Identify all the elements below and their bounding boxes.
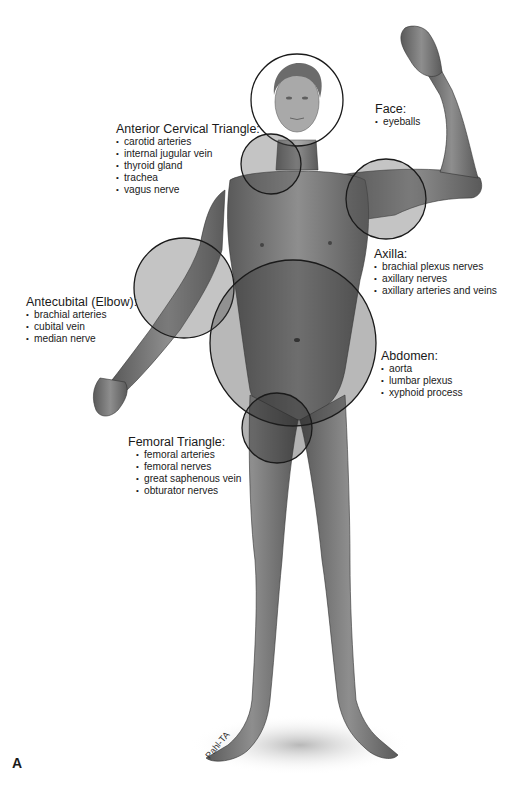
label-femoral-item: femoral arteries	[136, 449, 241, 461]
label-abdomen: Abdomen: aorta lumbar plexus xyphoid pro…	[381, 349, 463, 399]
label-anterior-cervical-item: thyroid gland	[116, 160, 260, 172]
nipple-left-icon	[260, 243, 264, 247]
label-antecubital-item: brachial arteries	[26, 309, 137, 321]
label-axilla-item: brachial plexus nerves	[374, 261, 497, 273]
label-axilla-item: axillary nerves	[374, 273, 497, 285]
label-antecubital-item: cubital vein	[26, 321, 137, 333]
panel-letter: A	[12, 755, 22, 771]
label-axilla-title: Axilla:	[374, 247, 497, 261]
label-anterior-cervical-item: vagus nerve	[116, 184, 260, 196]
label-face: Face: eyeballs	[375, 102, 420, 128]
label-antecubital-title: Antecubital (Elbow):	[26, 295, 137, 309]
label-anterior-cervical-title: Anterior Cervical Triangle:	[116, 122, 260, 136]
label-anterior-cervical: Anterior Cervical Triangle: carotid arte…	[116, 122, 260, 196]
label-face-item: eyeballs	[375, 116, 420, 128]
label-abdomen-item: lumbar plexus	[381, 375, 463, 387]
label-antecubital: Antecubital (Elbow): brachial arteries c…	[26, 295, 137, 345]
label-axilla-item: axillary arteries and veins	[374, 285, 497, 297]
region-circle-axilla	[346, 159, 426, 239]
region-circle-face	[251, 54, 343, 146]
region-circle-femoral	[242, 393, 312, 463]
right-leg	[300, 395, 398, 759]
label-abdomen-title: Abdomen:	[381, 349, 463, 363]
label-abdomen-item: aorta	[381, 363, 463, 375]
label-femoral: Femoral Triangle: femoral arteries femor…	[128, 435, 241, 497]
label-femoral-item: femoral nerves	[136, 461, 241, 473]
forearm-raised	[425, 67, 478, 178]
label-face-title: Face:	[375, 102, 420, 116]
hand-raised	[401, 26, 442, 76]
label-anterior-cervical-item: carotid arteries	[116, 136, 260, 148]
label-femoral-item: obturator nerves	[136, 485, 241, 497]
hand-hanging	[93, 378, 127, 416]
label-anterior-cervical-item: trachea	[116, 172, 260, 184]
label-anterior-cervical-item: internal jugular vein	[116, 148, 260, 160]
label-abdomen-item: xyphoid process	[381, 387, 463, 399]
label-axilla: Axilla: brachial plexus nerves axillary …	[374, 247, 497, 297]
label-femoral-item: great saphenous vein	[136, 473, 241, 485]
label-antecubital-item: median nerve	[26, 333, 137, 345]
nipple-right-icon	[328, 241, 332, 245]
label-femoral-title: Femoral Triangle:	[128, 435, 241, 449]
